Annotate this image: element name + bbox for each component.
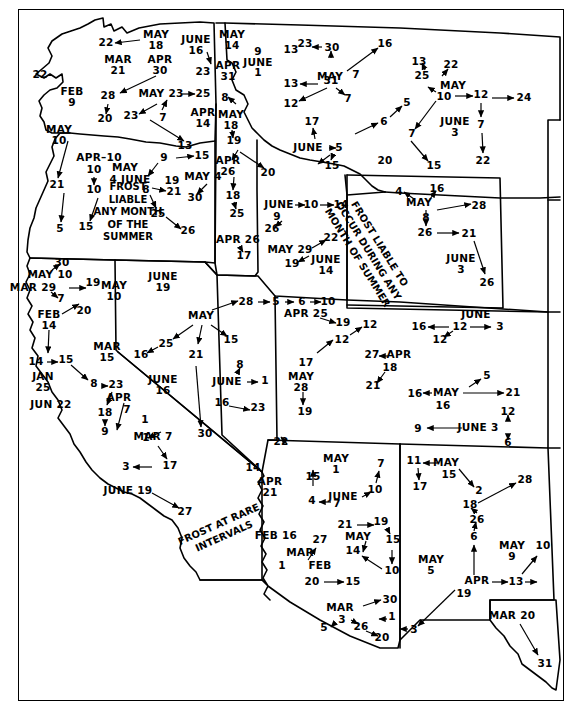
frost-date-label: MAR 7 xyxy=(133,431,172,442)
frost-date-label: 16 xyxy=(214,397,229,408)
frost-date-label: 16 xyxy=(407,388,422,399)
frost-date-label: JUNE16 xyxy=(148,374,178,395)
frost-date-label: 7 xyxy=(333,498,341,509)
frost-date-label: 14 xyxy=(28,356,43,367)
frost-date-label: 5 xyxy=(335,142,343,153)
frost-date-label: 22 xyxy=(443,59,458,70)
frost-date-label: MAY xyxy=(406,197,432,208)
frost-date-label: 21 xyxy=(505,387,520,398)
frost-date-label: 10 xyxy=(320,296,335,307)
frost-date-label: MAY 23 xyxy=(138,88,183,99)
frost-date-label: FEB 16 xyxy=(255,530,297,541)
frost-date-label: 18 xyxy=(462,499,477,510)
frost-date-label: 13 xyxy=(177,140,192,151)
frost-date-label: 28 xyxy=(100,90,115,101)
frost-date-label: 20 xyxy=(377,155,392,166)
frost-date-label: MAY xyxy=(433,457,459,468)
frost-date-label: MAY 29 xyxy=(267,244,312,255)
frost-date-label: 12 xyxy=(362,319,377,330)
frost-date-label: APR 25 xyxy=(284,308,328,319)
frost-date-label: 12 xyxy=(500,406,515,417)
frost-date-label: 19 xyxy=(85,277,100,288)
frost-date-label: 16 xyxy=(377,38,392,49)
frost-date-label: 15 xyxy=(426,160,441,171)
frost-date-label: 21 xyxy=(365,380,380,391)
frost-date-label: 21 xyxy=(188,349,203,360)
frost-date-label: MAY14 xyxy=(219,29,245,50)
frost-date-label: 27 xyxy=(364,349,379,360)
frost-date-label: 8 xyxy=(236,359,244,370)
frost-date-label: 17 xyxy=(236,250,251,261)
frost-date-label: 9JUNE1 xyxy=(243,46,273,78)
frost-date-map: 22MAY18JUNE1623MAY14APR319JUNE1MAR21APR3… xyxy=(0,0,582,715)
frost-date-label: APR30 xyxy=(148,54,173,75)
frost-date-label: MAY10 xyxy=(46,124,72,145)
frost-date-label: 26 xyxy=(469,514,484,525)
frost-date-label: 25 xyxy=(229,208,244,219)
frost-date-label: 22 xyxy=(273,436,288,447)
frost-date-label: 16 xyxy=(133,349,148,360)
frost-date-label: 30 xyxy=(197,428,212,439)
frost-date-label: APR xyxy=(107,392,132,403)
frost-date-label: JUNE xyxy=(461,309,491,320)
frost-date-label: FEB xyxy=(308,560,331,571)
frost-date-label: JUNE14 xyxy=(311,254,341,275)
frost-date-label: 30 xyxy=(54,257,69,268)
frost-date-label: 11 xyxy=(406,455,421,466)
frost-date-label: 21 xyxy=(49,179,64,190)
frost-date-label: 27 xyxy=(177,506,192,517)
frost-date-label: 8 xyxy=(90,378,98,389)
note-frost-liable-any-month: FROST LIABLE ANY MONTH OF THE SUMMER xyxy=(94,181,163,244)
frost-date-label: 20 xyxy=(374,632,389,643)
frost-date-label: JUN 22 xyxy=(30,399,71,410)
frost-date-label: 26 xyxy=(180,225,195,236)
frost-date-label: 12 xyxy=(473,89,488,100)
frost-date-label: 7 xyxy=(477,119,485,130)
frost-date-label: APR21 xyxy=(258,476,283,497)
frost-date-label: 3 xyxy=(496,321,504,332)
frost-date-label: 5 xyxy=(272,296,280,307)
frost-date-label: 28 xyxy=(238,296,253,307)
frost-date-label: 25 xyxy=(195,88,210,99)
frost-date-label: 15 xyxy=(324,160,339,171)
frost-date-label: 15 xyxy=(385,534,400,545)
frost-date-label: 4 xyxy=(308,495,316,506)
frost-date-label: 1 xyxy=(261,375,269,386)
frost-date-label: 5 xyxy=(403,97,411,108)
frost-date-label: MAY10 xyxy=(101,280,127,301)
frost-date-label: MAY xyxy=(345,531,371,542)
frost-date-label: 17 xyxy=(304,116,319,127)
frost-date-label: 15 xyxy=(441,469,456,480)
frost-date-label: 20 xyxy=(76,305,91,316)
frost-date-label: 18 xyxy=(225,190,240,201)
frost-date-label: 6 xyxy=(298,296,306,307)
frost-date-label: MAY18 xyxy=(143,29,169,50)
frost-date-label: 14 xyxy=(345,545,360,556)
frost-date-label: 16 xyxy=(429,183,444,194)
frost-date-label: JUNE xyxy=(212,376,242,387)
frost-date-label: JUNE 19 xyxy=(104,485,153,496)
frost-date-label: 13 xyxy=(283,78,298,89)
frost-date-label: 3 xyxy=(338,614,346,625)
frost-date-label: APR xyxy=(387,349,412,360)
frost-date-label: 1 xyxy=(278,560,286,571)
frost-date-label: 15 xyxy=(58,354,73,365)
frost-date-label: MAY18 xyxy=(218,109,244,130)
frost-date-label: 24 xyxy=(516,92,531,103)
frost-date-label: 5 xyxy=(320,622,328,633)
frost-date-label: 16 xyxy=(411,321,426,332)
frost-date-label: 7 xyxy=(159,112,167,123)
frost-date-label: MAY xyxy=(188,310,214,321)
frost-date-label: JUNE xyxy=(264,199,294,210)
frost-date-label: 31 xyxy=(323,75,338,86)
frost-date-label: 26 xyxy=(264,223,279,234)
frost-date-label: 5 xyxy=(483,370,491,381)
frost-date-label: 19 xyxy=(456,588,471,599)
frost-date-label: 31 xyxy=(537,658,552,669)
frost-date-label: MAR 20 xyxy=(489,610,536,621)
frost-date-label: 30 xyxy=(382,594,397,605)
frost-date-label: 12 xyxy=(283,98,298,109)
frost-date-label: 9 xyxy=(273,211,281,222)
frost-date-label: 12 xyxy=(452,321,467,332)
frost-date-label: MAY28 xyxy=(288,371,314,392)
